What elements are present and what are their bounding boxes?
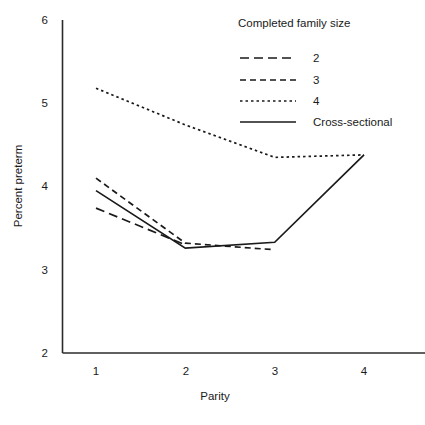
y-tick-label-6: 6 xyxy=(42,14,48,26)
x-tick-label-1: 1 xyxy=(93,365,99,377)
y-tick-label-2: 2 xyxy=(42,347,48,359)
legend-title: Completed family size xyxy=(238,17,350,29)
legend-label-cross-sectional: Cross-sectional xyxy=(313,116,392,128)
line-chart: 6 5 4 3 2 1 2 3 4 Parity Percent preterm… xyxy=(0,0,425,425)
x-axis-title: Parity xyxy=(200,390,230,402)
legend-label-3: 3 xyxy=(313,74,319,86)
x-tick-label-2: 2 xyxy=(183,365,189,377)
y-axis-title: Percent preterm xyxy=(12,145,24,227)
chart-page: 6 5 4 3 2 1 2 3 4 Parity Percent preterm… xyxy=(0,0,425,425)
x-tick-label-4: 4 xyxy=(361,365,368,377)
y-tick-label-5: 5 xyxy=(42,97,48,109)
x-tick-label-3: 3 xyxy=(272,365,278,377)
legend-label-2: 2 xyxy=(313,52,319,64)
y-tick-label-4: 4 xyxy=(42,180,49,192)
y-tick-label-3: 3 xyxy=(42,264,48,276)
legend-label-4: 4 xyxy=(313,95,320,107)
series-line-cross-sectional xyxy=(96,155,364,248)
series-line-3 xyxy=(96,178,275,250)
